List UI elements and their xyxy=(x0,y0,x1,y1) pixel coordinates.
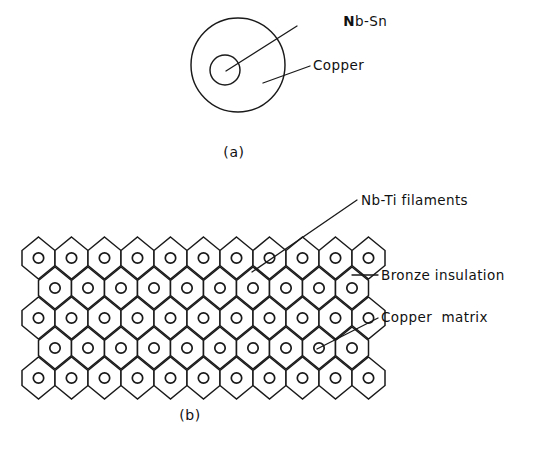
nb-ti-filament-dot xyxy=(363,253,373,263)
nb-ti-filament-dot xyxy=(215,283,225,293)
panel-a: Nb-Sn Copper (a) xyxy=(191,13,420,160)
nb-ti-filament-dot xyxy=(363,373,373,383)
superconductor-wire-cross-section-figure: Nb-Sn Copper (a) Nb-Ti filaments Bronze … xyxy=(0,0,550,451)
nb-sn-leader-line xyxy=(226,26,297,71)
nb-ti-filament-dot xyxy=(99,373,109,383)
nb-ti-filament-dot xyxy=(66,313,76,323)
nb-ti-filament-dot xyxy=(330,313,340,323)
copper-leader-line xyxy=(263,66,310,83)
nb-ti-filament-dot xyxy=(215,343,225,353)
nb-ti-filament-dot xyxy=(314,283,324,293)
nb-ti-filament-dot xyxy=(330,253,340,263)
nb-ti-filament-dot xyxy=(116,283,126,293)
nb-ti-filament-dot xyxy=(182,343,192,353)
nb-ti-filament-dot xyxy=(116,343,126,353)
nb-ti-filament-dot xyxy=(165,373,175,383)
nb-ti-filament-dot xyxy=(132,253,142,263)
figure-container: Nb-Sn Copper (a) Nb-Ti filaments Bronze … xyxy=(0,0,550,451)
nb-ti-filament-dot xyxy=(264,313,274,323)
label-nb-sn-bold-prefix: N xyxy=(343,13,355,29)
label-nb-sn: Nb-Sn xyxy=(301,13,420,29)
nb-ti-filament-dot xyxy=(132,313,142,323)
nb-ti-filament-dot xyxy=(248,283,258,293)
nb-ti-filament-dot xyxy=(297,253,307,263)
nb-ti-filament-dot xyxy=(132,373,142,383)
nb-ti-filament-dot xyxy=(330,373,340,383)
nb-ti-filament-dot xyxy=(149,343,159,353)
nb-ti-filament-dot xyxy=(248,343,258,353)
nb-ti-filament-dot xyxy=(165,253,175,263)
panel-b: Nb-Ti filaments Bronze insulation Copper… xyxy=(22,192,505,423)
nb-ti-filament-dot xyxy=(66,253,76,263)
nb-ti-filament-dot xyxy=(182,283,192,293)
copper-sheath-circle xyxy=(191,18,285,112)
nb-ti-filament-dot xyxy=(149,283,159,293)
nb-ti-filament-dot xyxy=(231,313,241,323)
nb-ti-filament-dot xyxy=(50,343,60,353)
nb-ti-filament-dot xyxy=(347,343,357,353)
label-nb-sn-rest: b-Sn xyxy=(355,13,387,29)
nb-ti-filament-dot xyxy=(231,373,241,383)
nb-ti-filament-dot xyxy=(198,373,208,383)
nb-ti-filament-dot xyxy=(297,373,307,383)
nb-ti-filament-dot xyxy=(33,313,43,323)
label-copper-matrix: Copper matrix xyxy=(381,309,488,325)
nb-ti-filament-dot xyxy=(198,253,208,263)
nb-ti-filament-dot xyxy=(264,373,274,383)
nb-ti-filament-dot xyxy=(83,343,93,353)
nb-ti-filament-dot xyxy=(33,373,43,383)
nb-ti-filament-dot xyxy=(281,343,291,353)
nb-ti-filament-dot xyxy=(66,373,76,383)
nb-ti-filament-dot xyxy=(99,253,109,263)
label-copper: Copper xyxy=(313,57,364,73)
nb-ti-filament-dot xyxy=(281,283,291,293)
nb-ti-filament-dot xyxy=(231,253,241,263)
label-nb-ti-filaments: Nb-Ti filaments xyxy=(361,192,468,208)
nb-ti-filament-dot xyxy=(297,313,307,323)
nb-ti-filament-dot xyxy=(83,283,93,293)
nb-sn-core-circle xyxy=(210,55,240,85)
nb-ti-filament-dot xyxy=(99,313,109,323)
caption-panel-a: (a) xyxy=(223,144,244,160)
hexagon-grid xyxy=(22,237,385,399)
caption-panel-b: (b) xyxy=(179,407,201,423)
nb-ti-filament-dot xyxy=(165,313,175,323)
label-bronze-insulation: Bronze insulation xyxy=(381,267,505,283)
nb-ti-filament-dot xyxy=(198,313,208,323)
nb-ti-filament-dot xyxy=(33,253,43,263)
nb-ti-filament-dot xyxy=(347,283,357,293)
nb-ti-filament-dot xyxy=(50,283,60,293)
